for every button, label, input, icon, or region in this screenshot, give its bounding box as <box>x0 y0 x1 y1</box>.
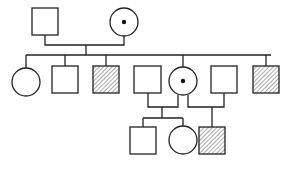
individual-I-1-male <box>32 8 58 35</box>
individual-II-4-male <box>134 66 161 93</box>
individual-III-2-female <box>169 126 197 154</box>
pedigree-chart <box>0 0 294 169</box>
individual-II-7-male-affected <box>253 66 279 93</box>
individual-III-1-male <box>130 127 156 154</box>
individual-II-6-male <box>211 66 237 93</box>
individual-II-5-female-carrier <box>169 67 197 95</box>
generation-3-connectors <box>143 93 224 127</box>
individual-II-2-male <box>52 66 78 93</box>
carrier-dot-icon <box>181 79 185 83</box>
individual-III-3-male-affected <box>199 127 225 154</box>
individual-I-2-female-carrier <box>110 8 138 36</box>
individual-II-1-female <box>12 68 40 96</box>
carrier-dot-icon <box>122 20 126 24</box>
individual-II-3-male-affected <box>93 66 119 93</box>
generation-1-connectors <box>45 35 124 55</box>
